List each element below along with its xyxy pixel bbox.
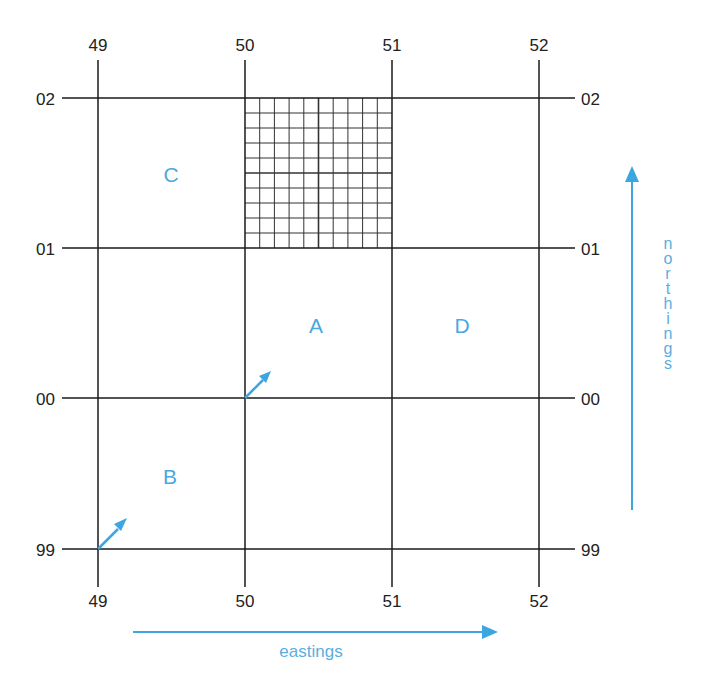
northings-letter: i [658,311,678,326]
easting-label-top: 50 [236,37,255,54]
northing-label-right: 00 [581,391,600,408]
easting-label-bottom: 52 [530,593,549,610]
northings-letter: n [658,326,678,341]
arrow-diagonal-ne-icon [245,380,263,398]
square-label-c: C [163,164,178,185]
northings-letter: t [658,281,678,296]
northing-label-right: 99 [581,542,600,559]
northing-label-right: 01 [581,241,600,258]
northing-label-left: 00 [15,391,55,408]
easting-label-bottom: 49 [89,593,108,610]
subdivided-square [245,98,392,248]
square-label-d: D [454,315,469,336]
square-label-b: B [163,466,177,487]
northings-axis-label: n o r t h i n g s [658,236,678,371]
easting-label-top: 52 [530,37,549,54]
northings-letter: r [658,266,678,281]
northing-label-left: 01 [15,241,55,258]
northings-letter: g [658,341,678,356]
square-label-a: A [309,315,323,336]
easting-label-top: 49 [89,37,108,54]
northings-letter: o [658,251,678,266]
arrow-up-icon [625,166,639,510]
northing-label-left: 99 [15,542,55,559]
northing-label-right: 02 [581,91,600,108]
arrow-diagonal-ne-icon [98,529,118,549]
northing-label-left: 02 [15,91,55,108]
northings-letter: h [658,296,678,311]
grid-reference-diagram: 49 50 51 52 49 50 51 52 02 01 00 99 02 0… [0,0,703,690]
northings-letter: s [658,356,678,371]
northings-letter: n [658,236,678,251]
eastings-axis-label: eastings [279,643,342,660]
easting-label-bottom: 50 [236,593,255,610]
easting-label-bottom: 51 [383,593,402,610]
easting-label-top: 51 [383,37,402,54]
arrow-right-icon [133,625,498,639]
